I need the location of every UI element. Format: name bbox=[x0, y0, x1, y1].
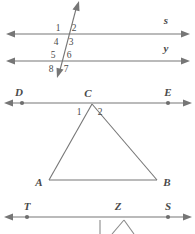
angle-number-6: 6 bbox=[67, 50, 72, 60]
line-s bbox=[6, 31, 190, 38]
line-s-label: s bbox=[163, 14, 168, 26]
angle-number-5: 5 bbox=[51, 50, 56, 60]
point-s-dot bbox=[166, 215, 170, 219]
parallel-lines-group: s y 1 2 4 3 5 6 8 7 bbox=[6, 1, 190, 78]
point-e-dot bbox=[166, 101, 170, 105]
line-de-left-arrowhead bbox=[4, 100, 13, 107]
line-ts-left-arrowhead bbox=[4, 214, 13, 221]
line-y-label: y bbox=[162, 42, 169, 54]
vertex-b-label: B bbox=[162, 176, 170, 188]
angle-number-c2: 2 bbox=[98, 107, 103, 117]
point-t-label: T bbox=[24, 200, 32, 212]
geometry-figure: s y 1 2 4 3 5 6 8 7 bbox=[0, 0, 195, 234]
angle-number-7: 7 bbox=[64, 64, 69, 74]
vertex-c-label: C bbox=[84, 87, 92, 99]
transversal-bottom-arrowhead bbox=[57, 68, 64, 78]
point-z-label: Z bbox=[114, 200, 122, 212]
point-d-label: D bbox=[14, 86, 23, 98]
angle-number-3: 3 bbox=[69, 37, 74, 47]
angle-number-c1: 1 bbox=[77, 107, 82, 117]
line-de bbox=[4, 100, 192, 107]
line-s-right-arrowhead bbox=[181, 31, 190, 38]
triangle-figure-group: C D E A B 1 2 bbox=[4, 86, 192, 188]
point-e-label: E bbox=[163, 86, 171, 98]
triangle-side-ca bbox=[49, 104, 92, 180]
line-y-left-arrowhead bbox=[6, 58, 15, 65]
line-y bbox=[6, 58, 190, 65]
angle-number-2: 2 bbox=[72, 23, 77, 33]
angle-number-8: 8 bbox=[49, 64, 54, 74]
angle-number-1: 1 bbox=[56, 23, 61, 33]
bottom-line-group: T Z S bbox=[4, 200, 192, 234]
point-d-dot bbox=[20, 101, 24, 105]
angle-mark-left-ray bbox=[112, 220, 124, 234]
angle-mark-right-ray bbox=[124, 220, 134, 234]
geometry-canvas: s y 1 2 4 3 5 6 8 7 bbox=[0, 0, 195, 234]
vertex-a-label: A bbox=[34, 176, 42, 188]
line-y-right-arrowhead bbox=[181, 58, 190, 65]
line-ts-right-arrowhead bbox=[183, 214, 192, 221]
triangle-abc bbox=[49, 104, 157, 180]
point-t-dot bbox=[25, 215, 29, 219]
line-de-right-arrowhead bbox=[183, 100, 192, 107]
point-s-label: S bbox=[165, 200, 171, 212]
line-s-left-arrowhead bbox=[6, 31, 15, 38]
transversal-top-arrowhead bbox=[73, 1, 80, 11]
angle-number-4: 4 bbox=[54, 37, 59, 47]
